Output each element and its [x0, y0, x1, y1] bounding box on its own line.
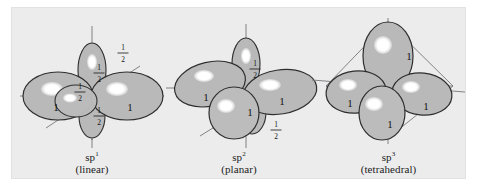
sp1-orbital-drawing: 1 1 1 2 1 2 1 2 [12, 8, 172, 158]
svg-text:2: 2 [97, 75, 101, 84]
sp2-orbital-drawing: 1 1 1 1 2 1 2 [160, 8, 318, 158]
svg-text:1: 1 [78, 82, 82, 91]
hybrid-orbital-figure: 1 1 1 2 1 2 1 2 [0, 0, 477, 192]
lobe-value-right: 1 [127, 101, 133, 113]
svg-text:1: 1 [97, 63, 101, 72]
svg-text:1: 1 [253, 59, 257, 68]
lobe-value-up-right-fraction: 1 2 [118, 43, 129, 64]
svg-text:1: 1 [274, 120, 278, 129]
svg-text:2: 2 [97, 118, 101, 127]
caption-sp3-symbol: sp3 [312, 148, 465, 163]
caption-sp1-geometry: (linear) [12, 163, 172, 176]
caption-sp2-geometry: (planar) [160, 163, 318, 176]
lobe-value-front-down: 1 [387, 118, 393, 130]
lobe-value-right: 1 [423, 100, 429, 112]
lobe-value-right: 1 [279, 95, 285, 107]
lobe-value-left: 1 [53, 101, 59, 113]
svg-text:1: 1 [97, 106, 101, 115]
panel-sp1: 1 1 1 2 1 2 1 2 [12, 8, 172, 178]
svg-text:2: 2 [78, 94, 82, 103]
svg-text:2: 2 [253, 71, 257, 80]
panel-sp2: 1 1 1 1 2 1 2 sp2 (planar) [160, 8, 318, 178]
caption-sp3: sp3 (tetrahedral) [312, 148, 465, 176]
svg-text:1: 1 [121, 43, 125, 52]
figure-plate: 1 1 1 2 1 2 1 2 [12, 8, 465, 178]
svg-text:2: 2 [274, 132, 278, 141]
residual-lobe-front-left [55, 85, 97, 117]
caption-sp2-symbol: sp2 [160, 148, 318, 163]
lobe-value-up: 1 [406, 50, 412, 62]
svg-text:2: 2 [121, 55, 125, 64]
lobe-value-upper-left: 1 [203, 91, 209, 103]
caption-sp3-geometry: (tetrahedral) [312, 163, 465, 176]
caption-sp1-symbol: sp1 [12, 148, 172, 163]
lobe-value-front-down: 1 [247, 106, 253, 118]
caption-sp1: sp1 (linear) [12, 148, 172, 176]
caption-sp2: sp2 (planar) [160, 148, 318, 176]
lobe-value-left: 1 [347, 97, 353, 109]
sp3-orbital-drawing: 1 1 1 1 [312, 8, 465, 158]
hybrid-lobe-front-down [359, 86, 405, 140]
lobe-value-down-right-fraction: 1 2 [271, 120, 282, 141]
panel-sp3: 1 1 1 1 sp3 (tetrahedral) [312, 8, 465, 178]
